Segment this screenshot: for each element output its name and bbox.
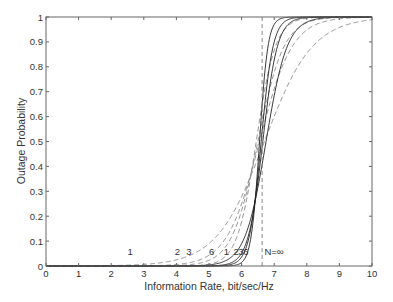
x-tick-label: 7 — [272, 268, 277, 279]
x-tick-label: 1 — [76, 268, 81, 279]
x-tick-label: 2 — [109, 268, 114, 279]
y-tick-label: 0.9 — [30, 36, 43, 47]
series-line — [46, 17, 372, 266]
x-tick-label: 10 — [367, 268, 378, 279]
plot-curves — [46, 17, 372, 266]
x-tick-label: 4 — [174, 268, 179, 279]
y-tick-label: 0.4 — [30, 161, 43, 172]
series-line — [46, 17, 372, 266]
x-tick-label: 0 — [43, 268, 48, 279]
outage-probability-chart: 012345678910 00.10.20.30.40.50.60.70.80.… — [0, 0, 393, 302]
x-axis-label: Information Rate, bit/sec/Hz — [144, 280, 274, 292]
curve-label: 6 — [209, 246, 214, 257]
curve-label: N=∞ — [264, 246, 283, 257]
series-line — [46, 17, 372, 266]
x-tick-label: 9 — [337, 268, 342, 279]
y-axis-ticks: 00.10.20.30.40.50.60.70.80.91 — [30, 12, 372, 272]
curve-label: 1 — [224, 246, 229, 257]
x-tick-label: 5 — [206, 268, 211, 279]
curve-labels: 12361236N=∞ — [128, 246, 284, 257]
y-tick-label: 0.2 — [30, 211, 43, 222]
x-tick-label: 6 — [239, 268, 244, 279]
y-tick-label: 0 — [38, 261, 43, 272]
series-line — [46, 17, 372, 266]
y-axis-label: Outage Probability — [15, 97, 27, 184]
series-line — [46, 17, 372, 266]
y-tick-label: 0.7 — [30, 86, 43, 97]
x-tick-label: 3 — [141, 268, 146, 279]
y-tick-label: 0.6 — [30, 111, 43, 122]
series-line — [46, 17, 372, 266]
series-line — [46, 17, 372, 266]
y-tick-label: 0.3 — [30, 186, 43, 197]
x-tick-label: 8 — [304, 268, 309, 279]
curve-label: 6 — [243, 246, 248, 257]
curve-label: 3 — [186, 246, 191, 257]
series-line — [46, 20, 372, 266]
y-tick-label: 0.8 — [30, 61, 43, 72]
curve-label: 2 — [175, 246, 180, 257]
y-tick-label: 0.1 — [30, 236, 43, 247]
curve-label: 1 — [128, 246, 133, 257]
y-tick-label: 1 — [38, 12, 43, 23]
plot-frame — [46, 17, 372, 266]
x-axis-ticks: 012345678910 — [43, 17, 377, 279]
y-tick-label: 0.5 — [30, 136, 43, 147]
